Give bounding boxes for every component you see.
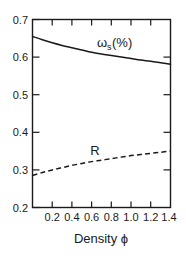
y-tick-label: 0.5 [13, 89, 28, 101]
x-tick-label: 0.8 [104, 211, 119, 223]
r-curve-label: R [90, 143, 99, 158]
x-axis-title: Density ϕ [74, 231, 128, 246]
x-tick-label: 1.4 [161, 211, 176, 223]
chart-figure: 0.7 0.6 0.5 0.4 0.3 0.2 0.2 0.4 0.6 0.8 … [0, 0, 186, 261]
x-tick-label: 0.4 [64, 211, 79, 223]
y-tick-label: 0.6 [13, 51, 28, 63]
omega-symbol: ω [97, 35, 107, 50]
x-tick-label: 1.2 [143, 211, 158, 223]
series-line-r [33, 151, 171, 175]
x-tick-label: 0.2 [45, 211, 60, 223]
y-tick-label: 0.2 [13, 202, 28, 214]
y-tick-label: 0.4 [13, 126, 28, 138]
y-tick-label: 0.3 [13, 164, 28, 176]
x-tick-label: 1.0 [123, 211, 138, 223]
x-tick-label: 0.6 [84, 211, 99, 223]
line-chart: 0.7 0.6 0.5 0.4 0.3 0.2 0.2 0.4 0.6 0.8 … [0, 0, 186, 261]
y-tick-label: 0.7 [13, 14, 28, 26]
omega-s-curve-label: ω s (%) [97, 35, 132, 52]
omega-percent-suffix: (%) [112, 35, 132, 50]
